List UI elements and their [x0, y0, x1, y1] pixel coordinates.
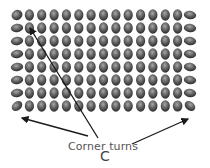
bead — [183, 62, 196, 72]
bead — [10, 75, 23, 85]
bead — [37, 61, 46, 73]
bead — [87, 9, 96, 21]
bead — [173, 48, 182, 60]
bead — [161, 35, 170, 47]
bead — [99, 100, 108, 112]
bead — [62, 61, 71, 73]
bead — [62, 35, 71, 47]
bead — [50, 22, 59, 34]
arrow-to-bottom-left-corner-icon — [22, 118, 88, 136]
bead — [148, 74, 157, 86]
bead — [148, 61, 157, 73]
bead — [173, 100, 183, 111]
bead — [136, 100, 145, 112]
bead — [99, 9, 108, 21]
bead — [74, 87, 83, 99]
bead — [173, 9, 182, 21]
bead — [37, 74, 46, 86]
bead — [62, 48, 71, 60]
bead — [183, 36, 196, 46]
bead — [10, 8, 25, 22]
bead — [37, 48, 46, 60]
bead — [87, 22, 96, 34]
bead — [10, 36, 23, 46]
bead — [183, 88, 196, 98]
bead — [50, 100, 59, 112]
bead — [25, 61, 34, 73]
panel-letter: C — [95, 148, 115, 164]
bead — [25, 74, 34, 86]
bead — [161, 61, 170, 73]
bead — [161, 48, 170, 60]
bead — [124, 61, 133, 73]
bead — [124, 100, 133, 112]
bead — [124, 87, 133, 99]
bead — [183, 75, 196, 85]
bead — [173, 22, 182, 34]
bead — [37, 9, 46, 21]
bead — [87, 35, 96, 47]
bead — [124, 48, 133, 60]
bead — [74, 22, 83, 34]
beads-group — [10, 8, 198, 113]
bead — [87, 87, 96, 99]
bead — [111, 22, 120, 34]
bead — [183, 23, 196, 33]
bead — [10, 23, 23, 33]
bead — [74, 61, 83, 73]
bead — [111, 74, 120, 86]
bead — [37, 22, 46, 34]
bead — [25, 35, 34, 47]
bead — [10, 62, 23, 72]
bead — [99, 22, 108, 34]
bead — [50, 35, 59, 47]
bead — [173, 87, 182, 99]
bead — [62, 100, 71, 112]
bead — [124, 35, 133, 47]
bead — [136, 74, 145, 86]
bead — [148, 100, 157, 112]
bead — [10, 99, 25, 113]
bead — [50, 9, 59, 21]
bead — [50, 48, 59, 60]
bead — [37, 87, 46, 99]
bead — [74, 74, 83, 86]
bead — [87, 61, 96, 73]
bead — [25, 9, 34, 21]
bead — [111, 100, 120, 112]
bead — [148, 22, 157, 34]
bead — [161, 74, 170, 86]
bead — [99, 35, 108, 47]
bead — [136, 87, 145, 99]
bead — [10, 49, 23, 59]
bead — [161, 9, 170, 21]
bead — [50, 87, 59, 99]
bead — [136, 9, 145, 21]
bead — [136, 22, 145, 34]
bead — [62, 9, 71, 21]
bead — [136, 48, 145, 60]
bead — [99, 61, 108, 73]
bead — [74, 35, 83, 47]
bead — [50, 74, 59, 86]
bead — [74, 48, 83, 60]
bead — [124, 9, 133, 21]
bead — [99, 74, 108, 86]
bead — [161, 22, 170, 34]
bead — [99, 48, 108, 60]
bead — [25, 87, 34, 99]
bead — [148, 48, 157, 60]
bead — [111, 9, 120, 21]
bead — [124, 74, 133, 86]
bead — [148, 35, 157, 47]
bead — [25, 48, 34, 60]
bead — [111, 87, 120, 99]
bead — [183, 99, 198, 113]
bead — [37, 100, 46, 112]
bead — [136, 61, 145, 73]
bead — [62, 74, 71, 86]
bead — [136, 35, 145, 47]
bead — [111, 35, 120, 47]
bead — [10, 88, 23, 98]
bead — [99, 87, 108, 99]
